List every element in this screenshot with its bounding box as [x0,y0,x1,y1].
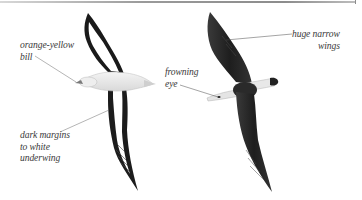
label-wings-line2: wings [292,40,340,52]
label-frowning-eye: frowning eye [165,66,199,89]
lower-dark-wing [236,92,272,192]
label-eye-line1: frowning [165,66,199,78]
label-margins-line1: dark margins [20,129,70,141]
lower-wing-margin [108,88,138,191]
label-dark-margins: dark margins to white underwing [20,129,70,164]
upper-dark-wing [208,12,252,84]
label-orange-yellow-bill: orange-yellow bill [20,39,74,62]
upper-wing-margin [84,13,124,74]
tail-tip [270,78,278,86]
label-bill-line1: orange-yellow [20,39,74,51]
leader-line-wings [226,34,292,40]
label-eye-line2: eye [165,78,199,90]
tail [144,80,156,87]
underside-albatross [75,13,156,191]
label-margins-line2: to white [20,141,70,153]
label-wings-line1: huge narrow [292,28,340,40]
label-bill-line2: bill [20,51,74,63]
label-huge-narrow-wings: huge narrow wings [292,28,340,51]
label-margins-line3: underwing [20,152,70,164]
upperside-albatross [207,12,278,192]
